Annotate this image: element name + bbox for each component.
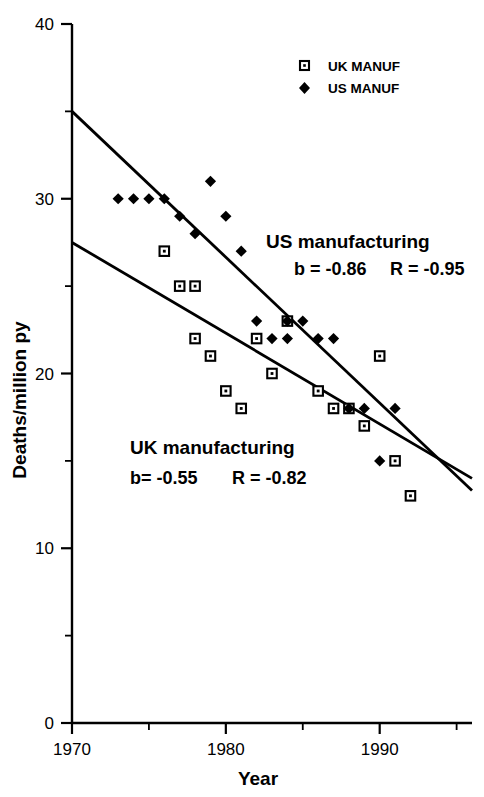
data-point-uk-manuf-core [271,372,274,375]
data-point-us-manuf [220,211,231,222]
regression-lines [72,111,472,490]
annotation-uk-title: UK manufacturing [130,437,295,458]
y-axis-tick-labels: 010203040 [35,15,54,733]
data-point-us-manuf [251,315,262,326]
y-tick-label: 20 [35,365,54,384]
annotation-us-manufacturing: US manufacturing b = -0.86 R = -0.95 [266,231,465,279]
data-point-us-manuf [328,333,339,344]
data-point-us-manuf [143,193,154,204]
data-point-us-manuf [374,455,385,466]
y-axis-ticks [61,24,72,723]
annotation-uk-r: R = -0.82 [232,468,307,488]
data-point-uk-manuf-core [209,355,212,358]
scatter-plot-figure: 010203040 197019801990 Deaths/million py… [0,0,484,797]
y-tick-label: 30 [35,190,54,209]
x-axis-tick-labels: 197019801990 [53,740,399,759]
x-axis-ticks [72,723,457,734]
data-point-uk-manuf-core [255,337,258,340]
data-point-us-manuf [205,176,216,187]
y-tick-label: 40 [35,15,54,34]
series-us-manuf-points [113,176,401,467]
data-point-us-manuf [266,333,277,344]
annotation-uk-manufacturing: UK manufacturing b= -0.55 R = -0.82 [130,437,307,488]
data-point-uk-manuf-core [317,390,320,393]
data-point-uk-manuf-core [224,390,227,393]
chart-container: 010203040 197019801990 Deaths/million py… [0,0,484,797]
data-point-uk-manuf-core [240,407,243,410]
data-point-us-manuf [189,228,200,239]
data-point-uk-manuf-core [178,285,181,288]
data-point-uk-manuf-core [194,337,197,340]
us-manuf-marker-icon [299,82,310,94]
annotation-uk-slope: b= -0.55 [130,468,198,488]
x-tick-label: 1990 [361,740,399,759]
data-point-uk-manuf-core [378,355,381,358]
x-tick-label: 1980 [207,740,245,759]
legend-item-us[interactable]: US MANUF [299,81,399,96]
legend-label-us: US MANUF [328,81,399,96]
uk-manuf-marker-core-icon [303,64,306,67]
legend-label-uk: UK MANUF [328,59,400,74]
y-axis-title: Deaths/million py [9,321,30,479]
legend: UK MANUF US MANUF [299,59,400,96]
legend-item-uk[interactable]: UK MANUF [300,59,400,74]
data-point-us-manuf [128,193,139,204]
data-point-us-manuf [113,193,124,204]
annotation-us-slope: b = -0.86 [294,259,367,279]
x-axis-title: Year [238,768,279,789]
data-point-uk-manuf-core [194,285,197,288]
data-point-uk-manuf-core [409,494,412,497]
regression-line [72,111,472,490]
annotation-us-title: US manufacturing [266,231,430,252]
data-point-uk-manuf-core [394,459,397,462]
data-point-uk-manuf-core [363,425,366,428]
data-point-uk-manuf-core [163,250,166,253]
annotation-us-r: R = -0.95 [390,259,465,279]
x-tick-label: 1970 [53,740,91,759]
data-point-us-manuf [174,211,185,222]
data-point-us-manuf [236,246,247,257]
data-point-us-manuf [282,333,293,344]
y-tick-label: 10 [35,539,54,558]
data-point-uk-manuf-core [332,407,335,410]
y-tick-label: 0 [45,714,54,733]
